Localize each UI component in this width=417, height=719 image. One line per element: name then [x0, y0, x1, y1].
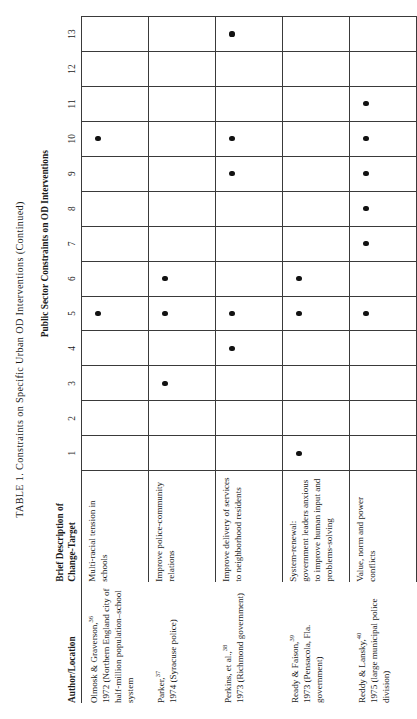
cell-constraint-10 [283, 121, 350, 156]
table-body: Olmosk & Graverson,361972 (Northern Engl… [82, 17, 417, 704]
table-row: Parker,371974 (Syracuse police)Improve p… [149, 17, 216, 704]
cell-constraint-10 [216, 121, 283, 156]
constraint-mark-dot [229, 311, 234, 316]
table-row: Reddy & Lansky,401975 (large municipal p… [350, 17, 417, 704]
cell-constraint-6 [82, 261, 149, 296]
cell-constraint-11 [350, 86, 417, 121]
author-reference-number: 39 [288, 635, 295, 642]
author-name: Parker,37 [154, 588, 168, 703]
cell-constraint-9 [350, 156, 417, 191]
constraint-mark-dot [363, 171, 368, 176]
header-constraint-9: 9 [54, 156, 82, 191]
cell-constraint-7 [216, 226, 283, 261]
cell-constraint-4 [283, 331, 350, 366]
cell-constraint-11 [283, 86, 350, 121]
author-location-detail: 1975 (large municipal police division) [369, 598, 391, 703]
cell-constraint-7 [350, 226, 417, 261]
cell-constraint-6 [283, 261, 350, 296]
cell-constraint-12 [149, 52, 216, 87]
cell-constraint-6 [216, 261, 283, 296]
cell-constraint-3 [216, 366, 283, 401]
spanner-row: Public Sector Constraints on OD Interven… [39, 17, 54, 704]
header-constraint-13: 13 [54, 17, 82, 52]
cell-constraint-1 [149, 436, 216, 471]
cell-constraint-8 [350, 191, 417, 226]
cell-constraint-8 [149, 191, 216, 226]
cell-constraint-5 [283, 296, 350, 331]
cell-constraint-6 [149, 261, 216, 296]
header-constraint-11: 11 [54, 86, 82, 121]
author-name: Perkins, et al.,38 [221, 588, 235, 703]
cell-author-location: Parker,371974 (Syracuse police) [149, 582, 216, 703]
constraint-mark-dot [296, 451, 301, 456]
constraint-mark-dot [229, 346, 234, 351]
author-name: Olmosk & Graverson,36 [87, 588, 101, 703]
cell-constraint-1 [82, 436, 149, 471]
cell-constraint-8 [216, 191, 283, 226]
constraint-mark-dot [229, 136, 234, 141]
cell-brief-description: Multi-racial tension in schools [82, 471, 149, 582]
header-constraint-1: 1 [54, 436, 82, 471]
cell-constraint-3 [149, 366, 216, 401]
header-constraint-2: 2 [54, 401, 82, 436]
cell-constraint-13 [216, 17, 283, 52]
cell-author-location: Olmosk & Graverson,361972 (Northern Engl… [82, 582, 149, 703]
cell-brief-description: System-renewal: government leaders anxio… [283, 471, 350, 582]
cell-brief-description: Improve delivery of services to neighbor… [216, 471, 283, 582]
constraint-mark-dot [363, 206, 368, 211]
constraint-mark-dot [363, 311, 368, 316]
header-constraint-4: 4 [54, 331, 82, 366]
header-constraint-12: 12 [54, 52, 82, 87]
cell-constraint-11 [82, 86, 149, 121]
cell-constraint-10 [149, 121, 216, 156]
spanner-spacer-author [39, 582, 54, 703]
cell-constraint-7 [149, 226, 216, 261]
cell-constraint-1 [283, 436, 350, 471]
header-constraint-8: 8 [54, 191, 82, 226]
constraint-mark-dot [95, 136, 100, 141]
cell-constraint-2 [283, 401, 350, 436]
cell-constraint-9 [149, 156, 216, 191]
header-constraint-5: 5 [54, 296, 82, 331]
header-constraint-7: 7 [54, 226, 82, 261]
cell-constraint-4 [82, 331, 149, 366]
cell-constraint-6 [350, 261, 417, 296]
cell-constraint-12 [216, 52, 283, 87]
cell-constraint-5 [216, 296, 283, 331]
author-reference-number: 36 [87, 616, 94, 623]
cell-constraint-9 [216, 156, 283, 191]
cell-constraint-8 [283, 191, 350, 226]
cell-constraint-8 [82, 191, 149, 226]
cell-constraint-2 [149, 401, 216, 436]
header-desc-line2: Change-Target [67, 522, 77, 582]
cell-constraint-5 [149, 296, 216, 331]
cell-constraint-3 [283, 366, 350, 401]
cell-constraint-12 [82, 52, 149, 87]
cell-constraint-12 [283, 52, 350, 87]
cell-constraint-1 [216, 436, 283, 471]
column-header-row: Author/Location Brief Description of Cha… [54, 17, 82, 704]
cell-constraint-13 [350, 17, 417, 52]
description-text: Value, norm and power conflicts [355, 477, 379, 581]
constraint-mark-dot [363, 101, 368, 106]
cell-constraint-3 [350, 366, 417, 401]
author-location-detail: 1973 (Richmond government) [235, 593, 245, 703]
cell-constraint-7 [283, 226, 350, 261]
cell-constraint-13 [283, 17, 350, 52]
cell-constraint-5 [82, 296, 149, 331]
cell-constraint-2 [216, 401, 283, 436]
header-constraint-10: 10 [54, 121, 82, 156]
constraint-mark-dot [162, 311, 167, 316]
cell-constraint-2 [350, 401, 417, 436]
cell-author-location: Ready & Faison,391973 (Pensacola, Fla. g… [283, 582, 350, 703]
cell-constraint-10 [350, 121, 417, 156]
constraint-mark-dot [162, 276, 167, 281]
constraint-mark-dot [363, 136, 368, 141]
author-name: Reddy & Lansky,40 [355, 588, 369, 703]
author-reference-number: 37 [154, 671, 161, 678]
description-text: Improve delivery of services to neighbor… [221, 477, 245, 581]
table-row: Olmosk & Graverson,361972 (Northern Engl… [82, 17, 149, 704]
cell-constraint-9 [283, 156, 350, 191]
